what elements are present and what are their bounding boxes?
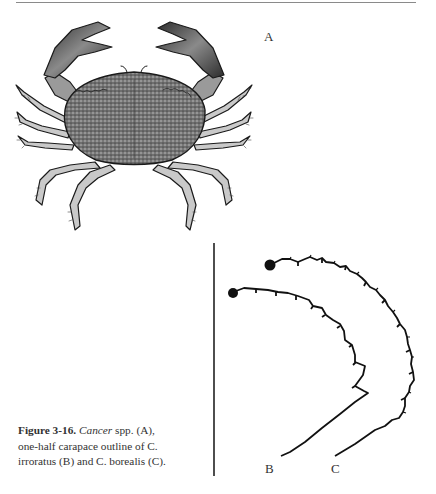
caption-text-1: spp. (A), (112, 424, 155, 436)
panel-label-c: C (331, 462, 340, 475)
crab-illustration (15, 22, 253, 230)
outline-b (228, 288, 368, 456)
panel-label-a: A (264, 30, 273, 43)
caption-text-2: one-half carapace outline of C. (18, 440, 158, 452)
outline-c (265, 255, 415, 456)
figure-caption: Figure 3-16. Cancer spp. (A), one-half c… (18, 423, 208, 470)
panel-label-b: B (265, 462, 274, 475)
caption-genus: Cancer (79, 424, 112, 436)
figure-illustration (0, 0, 436, 494)
caption-text-3: irroratus (B) and C. borealis (C). (18, 455, 166, 467)
figure-number: Figure 3-16. (18, 424, 76, 436)
